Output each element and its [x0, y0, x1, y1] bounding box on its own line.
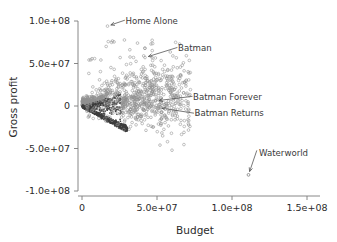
data-point	[119, 119, 121, 121]
x-tick-label: 1.0e+08	[211, 202, 252, 213]
x-tick-label: 0	[79, 202, 85, 213]
data-point	[111, 122, 113, 124]
y-tick-label: 0	[64, 100, 70, 111]
data-point	[117, 94, 119, 96]
annotation-label: Batman Returns	[195, 108, 265, 118]
y-axis-title: Gross profit	[7, 77, 19, 138]
data-point	[114, 125, 116, 127]
annotation-label: Batman	[178, 43, 212, 53]
data-point	[115, 108, 117, 110]
data-point	[82, 105, 84, 107]
data-point	[100, 116, 102, 118]
annotation-label: Batman Forever	[193, 92, 262, 102]
data-point	[120, 120, 122, 122]
data-point	[118, 127, 120, 129]
annotation-label: Waterworld	[259, 148, 308, 158]
data-point	[115, 111, 117, 113]
y-tick-label: -5.0e+07	[26, 143, 70, 154]
data-point	[121, 124, 123, 126]
data-point	[112, 122, 114, 124]
data-point	[121, 127, 123, 129]
data-point	[98, 115, 100, 117]
scatter-plot-figure: -1.0e+08-5.0e+0705.0e+071.0e+08 05.0e+07…	[0, 0, 337, 242]
x-tick-label: 5.0e+07	[136, 202, 177, 213]
data-point	[126, 128, 128, 130]
data-point	[96, 113, 98, 115]
plot-canvas: -1.0e+08-5.0e+0705.0e+071.0e+08 05.0e+07…	[0, 0, 337, 242]
data-point	[101, 102, 103, 104]
annotation-label: Home Alone	[126, 16, 178, 26]
data-point	[124, 125, 126, 127]
data-point	[114, 122, 116, 124]
x-axis-title: Budget	[176, 224, 214, 236]
y-tick-label: 5.0e+07	[29, 58, 70, 69]
data-point	[83, 107, 85, 109]
data-point	[89, 105, 91, 107]
data-point	[99, 113, 101, 115]
y-tick-label: 1.0e+08	[29, 15, 70, 26]
data-point	[92, 104, 94, 106]
data-point	[94, 103, 96, 105]
x-tick-label: 1.5e+08	[286, 202, 327, 213]
data-point	[100, 104, 102, 106]
y-tick-label: -1.0e+08	[26, 185, 70, 196]
